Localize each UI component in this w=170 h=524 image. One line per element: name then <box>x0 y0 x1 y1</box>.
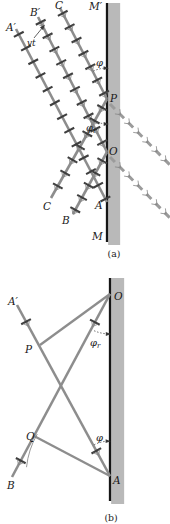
incident-ray-B <box>38 17 107 152</box>
wave-reflection-figure: A′B′CM′vtφPφrOACBM(a)A′OPφrQφBA(b) <box>0 0 170 524</box>
label-C-top: C <box>55 0 63 11</box>
label-B-prime: B′ <box>29 6 41 18</box>
label-phi-r-b: φr <box>90 337 101 350</box>
subscript: r <box>97 342 101 350</box>
caption-b: (b) <box>104 512 117 523</box>
wave-reflection-diagram: A′B′CM′vtφPφrOACBM(a)A′OPφrQφBA(b) <box>0 0 170 524</box>
label-phi: φ <box>96 57 103 68</box>
label-B-b: B <box>6 479 15 491</box>
label-P: P <box>109 92 118 104</box>
label-P-b: P <box>24 343 33 355</box>
label-A-prime: A′ <box>5 21 17 33</box>
mirror-band <box>108 3 120 245</box>
label-phi-b: φ <box>96 432 103 443</box>
label-Q-b: Q <box>26 430 35 443</box>
mirror-band <box>111 278 124 504</box>
label-O-b: O <box>114 290 123 302</box>
angle-phi-arc <box>93 68 104 71</box>
caption-a: (a) <box>108 248 121 259</box>
label-A-b: A <box>112 474 121 486</box>
label-vt: vt <box>27 38 36 48</box>
label-M-prime: M′ <box>88 0 103 12</box>
panel-a: A′B′CM′vtφPφrOACBM(a) <box>5 0 170 259</box>
label-A-wall: A <box>94 199 103 211</box>
wavefront-P-O <box>40 294 110 345</box>
label-A-prime-b: A′ <box>7 295 19 307</box>
label-O: O <box>109 145 118 157</box>
label-B-bottom: B <box>61 214 70 226</box>
label-M: M <box>91 230 103 242</box>
panel-b: A′OPφrQφBA(b) <box>6 278 124 523</box>
label-C-bottom: C <box>43 200 51 212</box>
angle-phi-r-arc-b <box>93 330 108 334</box>
